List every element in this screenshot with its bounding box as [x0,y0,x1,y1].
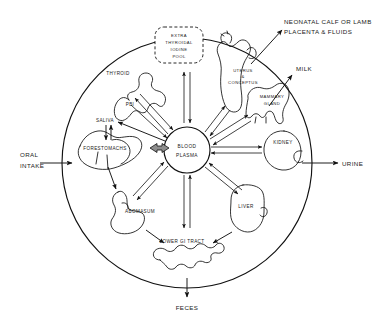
thyroid-label: THYROID [106,71,130,76]
mammary-label-line2: GLAND [264,101,280,106]
diagram-canvas: BLOOD PLASMA [0,0,372,325]
uterus-horn-right [247,48,256,59]
saliva-label: SALIVA [96,118,115,123]
mammary-label-line1: MAMMARY [260,94,285,99]
forestomachs-inner-line [112,139,130,164]
iodine-cycle-diagram: BLOOD PLASMA [0,0,372,325]
arrow-neonatal-out [251,30,282,64]
arrow-plasma-lower-gi [184,175,190,228]
uterus-label-line2: & [241,74,244,79]
neonatal-label-line1: NEONATAL CALF OR LAMB [284,18,372,25]
forestomachs-fold-2 [107,155,108,169]
urine-label: URINE [342,160,363,167]
blood-plasma-label-line2: PLASMA [176,153,198,158]
lower-gi-label: LOWER GI TRACT [159,239,204,244]
uterus-organ-shape [217,40,250,112]
pool-label-line1: EXTRA [171,33,187,38]
arrow-plasma-uterus [205,106,230,136]
pbi-label: PBI [126,102,135,107]
pool-label-line4: POOL [172,54,186,59]
arrow-plasma-abomasum [133,162,168,200]
arrow-plasma-mammary [210,115,251,145]
arrow-plasma-kidney [211,147,262,153]
abomasum-label: ABOMASUM [125,209,155,214]
oral-intake-label-line1: ORAL [20,151,39,158]
kidney-hilum [294,151,303,163]
pool-label-line2: THYROIDAL [165,40,193,45]
pool-label-line3: IODINE [171,47,188,52]
uterus-label-line1: UTERUS [233,68,253,73]
arrow-plasma-liver [205,163,242,194]
blood-plasma-label-line1: BLOOD [178,144,197,149]
forestomachs-label: FORESTOMACHS [83,146,127,151]
arrow-pbi-thyroid-plasma [131,105,167,138]
mammary-teats [255,117,266,123]
arrow-plasma-iodine-pool [184,72,190,123]
feces-label: FECES [176,304,199,311]
arrow-forestomachs-abomasum [108,167,116,189]
liver-label: LIVER [238,204,254,209]
arrow-plasma-saliva [118,122,165,141]
kidney-organ-shape [264,131,301,170]
neonatal-label-line2: PLACENTA & FLUIDS [284,28,352,35]
lower-gi-organ-shape [153,243,224,269]
milk-label: MILK [296,65,313,72]
forestomachs-fold-1 [96,152,98,164]
uterus-horn-detail [221,31,228,36]
blood-plasma-pool [164,127,210,173]
arrow-liver-lower-gi [213,232,232,243]
kidney-label: KIDNEY [273,140,293,145]
oral-intake-label-line2: INTAKE [20,162,44,169]
uterus-label-line3: CONCEPTUS [228,80,258,85]
